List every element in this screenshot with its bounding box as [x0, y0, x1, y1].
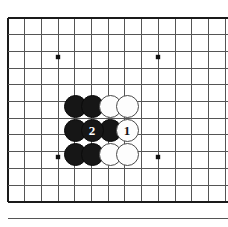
stone-white[interactable] [116, 95, 139, 118]
grid-lines [8, 18, 228, 218]
stone-white-move-1[interactable]: 1 [116, 119, 139, 142]
stone-white[interactable] [116, 143, 139, 166]
move-number-label: 2 [89, 124, 96, 137]
star-point [56, 155, 60, 159]
move-number-label: 1 [124, 124, 131, 137]
stone-black-move-2[interactable]: 2 [81, 119, 104, 142]
star-point [156, 155, 160, 159]
star-point [156, 55, 160, 59]
go-board-diagram: 21 [0, 0, 228, 227]
star-point [56, 55, 60, 59]
